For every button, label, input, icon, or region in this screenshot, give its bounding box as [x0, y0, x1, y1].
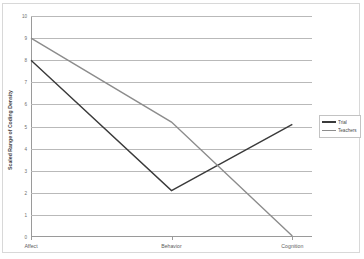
- legend-label: Trial: [338, 120, 347, 125]
- y-axis-tick-label: 9: [24, 36, 27, 41]
- y-axis-tick-label: 6: [24, 102, 27, 107]
- legend-item[interactable]: Trial: [322, 118, 358, 126]
- legend-item[interactable]: Teachers: [322, 126, 358, 134]
- y-axis-tick-label: 2: [24, 190, 27, 195]
- y-axis-tick-label: 10: [22, 14, 27, 19]
- x-axis-tick-mark: [292, 237, 293, 240]
- legend-swatch: [322, 121, 336, 123]
- chart-legend: TrialTeachers: [319, 115, 361, 138]
- x-axis-tick-mark: [172, 237, 173, 240]
- legend-swatch: [322, 130, 336, 131]
- y-axis-tick-label: 4: [24, 146, 27, 151]
- x-axis-tick-mark: [31, 237, 32, 240]
- y-axis-tick-label: 5: [24, 124, 27, 129]
- x-axis-tick-label: Affect: [24, 243, 37, 249]
- y-axis-tick-label: 3: [24, 168, 27, 173]
- y-axis-tick-label: 0: [24, 235, 27, 240]
- y-axis-tick-label: 7: [24, 80, 27, 85]
- series-line: [31, 38, 292, 236]
- x-axis-tick-label: Behavior: [161, 243, 181, 249]
- y-axis-tick-label: 8: [24, 58, 27, 63]
- plot-area: 012345678910 AffectBehaviorCognition: [31, 16, 312, 237]
- y-axis-title: Scaled Range of Coding Density: [7, 90, 13, 170]
- series-line: [31, 60, 292, 190]
- chart-figure: Scaled Range of Coding Density 012345678…: [0, 0, 364, 259]
- legend-label: Teachers: [338, 128, 357, 133]
- x-axis-tick-label: Cognition: [281, 243, 303, 249]
- series-lines: [31, 16, 312, 237]
- y-axis-tick-label: 1: [24, 212, 27, 217]
